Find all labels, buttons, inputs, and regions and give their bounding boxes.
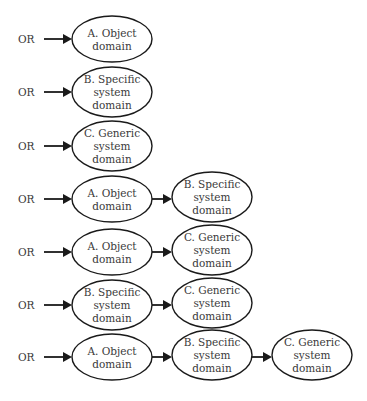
arrowhead-icon <box>63 194 72 204</box>
domain-node-c: C. Genericsystemdomain <box>272 330 352 380</box>
arrow <box>44 247 72 257</box>
or-label: OR <box>18 140 36 152</box>
arrow <box>152 194 172 204</box>
node-label: C. Generic <box>184 231 240 243</box>
node-label: domain <box>92 99 132 111</box>
domain-node-b: B. Specificsystemdomain <box>172 330 252 380</box>
arrow <box>44 352 72 362</box>
node-label: A. Object <box>86 187 137 199</box>
node-label: domain <box>192 310 232 322</box>
domain-node-a: A. Objectdomain <box>72 334 152 380</box>
domain-node-b: B. Specificsystemdomain <box>72 280 152 330</box>
node-label: A. Object <box>86 240 137 252</box>
arrow <box>44 87 72 97</box>
domain-node-a: A. Objectdomain <box>72 176 152 222</box>
domain-node-c: C. Genericsystemdomain <box>172 278 252 328</box>
domain-node-b: B. Specificsystemdomain <box>72 67 152 117</box>
domain-node-b: B. Specificsystemdomain <box>172 172 252 222</box>
or-label: OR <box>18 86 36 98</box>
node-label: domain <box>92 153 132 165</box>
or-label: OR <box>18 33 36 45</box>
domain-node-a: A. Objectdomain <box>72 229 152 275</box>
node-label: domain <box>192 257 232 269</box>
node-label: domain <box>92 200 132 212</box>
node-label: B. Specific <box>184 178 241 190</box>
node-label: B. Specific <box>184 336 241 348</box>
domain-node-c: C. Genericsystemdomain <box>172 225 252 275</box>
node-label: domain <box>192 204 232 216</box>
node-label: system <box>193 191 230 203</box>
node-label: system <box>193 349 230 361</box>
arrowhead-icon <box>63 87 72 97</box>
arrow <box>152 352 172 362</box>
arrowhead-icon <box>263 352 272 362</box>
node-label: C. Generic <box>284 336 340 348</box>
arrow <box>44 141 72 151</box>
arrowhead-icon <box>163 300 172 310</box>
node-label: domain <box>192 362 232 374</box>
node-label: system <box>93 140 130 152</box>
domain-diagram: ORA. ObjectdomainORB. Specificsystemdoma… <box>0 0 367 401</box>
node-label: system <box>293 349 330 361</box>
arrow <box>44 34 72 44</box>
or-label: OR <box>18 193 36 205</box>
node-label: C. Generic <box>184 284 240 296</box>
node-label: system <box>93 86 130 98</box>
or-label: OR <box>18 351 36 363</box>
arrow <box>44 194 72 204</box>
node-label: system <box>193 244 230 256</box>
node-label: domain <box>92 358 132 370</box>
arrow <box>152 300 172 310</box>
node-label: domain <box>92 40 132 52</box>
or-label: OR <box>18 299 36 311</box>
arrow <box>44 300 72 310</box>
arrowhead-icon <box>163 194 172 204</box>
node-label: C. Generic <box>84 127 140 139</box>
node-label: domain <box>92 312 132 324</box>
node-label: domain <box>92 253 132 265</box>
arrowhead-icon <box>163 247 172 257</box>
node-label: B. Specific <box>84 73 141 85</box>
node-label: system <box>193 297 230 309</box>
node-label: A. Object <box>86 345 137 357</box>
node-label: domain <box>292 362 332 374</box>
node-label: B. Specific <box>84 286 141 298</box>
node-label: system <box>93 299 130 311</box>
arrowhead-icon <box>63 34 72 44</box>
arrow <box>252 352 272 362</box>
arrowhead-icon <box>63 247 72 257</box>
arrowhead-icon <box>63 141 72 151</box>
domain-node-a: A. Objectdomain <box>72 16 152 62</box>
arrow <box>152 247 172 257</box>
node-label: A. Object <box>86 27 137 39</box>
arrowhead-icon <box>63 352 72 362</box>
domain-node-c: C. Genericsystemdomain <box>72 121 152 171</box>
or-label: OR <box>18 246 36 258</box>
arrowhead-icon <box>63 300 72 310</box>
arrowhead-icon <box>163 352 172 362</box>
